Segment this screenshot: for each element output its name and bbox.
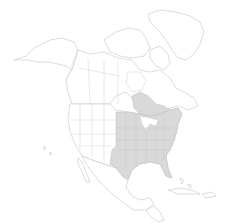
hispaniola [202, 192, 216, 198]
north-america-map [0, 0, 236, 224]
baffin-island [150, 46, 170, 70]
alaska [14, 38, 78, 70]
central-america [146, 206, 164, 222]
cuba [168, 188, 200, 194]
arctic-islands [104, 28, 150, 58]
range-map [0, 0, 236, 224]
pacific-islands [44, 146, 52, 155]
bahamas [180, 178, 192, 188]
